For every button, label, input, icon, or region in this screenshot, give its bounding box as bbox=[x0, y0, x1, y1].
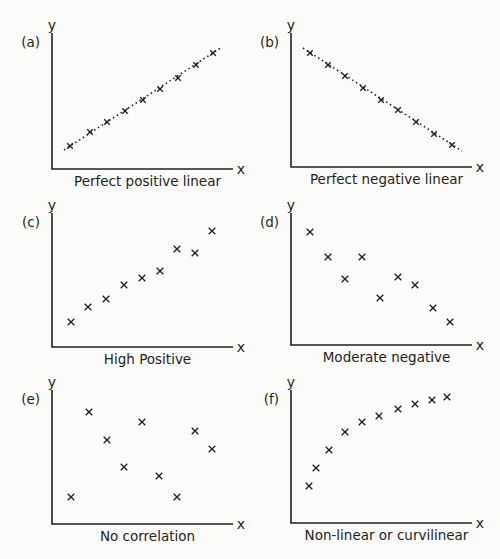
x-marker-icon bbox=[306, 483, 313, 490]
x-marker-icon bbox=[156, 473, 163, 480]
y-axis-label: y bbox=[48, 17, 56, 33]
panel-letter: (f) bbox=[264, 391, 279, 407]
panel-caption: Perfect positive linear bbox=[74, 173, 221, 189]
panel-letter: (b) bbox=[260, 34, 279, 50]
panel-caption: Moderate negative bbox=[323, 349, 451, 365]
x-axis-label: x bbox=[237, 161, 245, 177]
x-marker-icon bbox=[139, 419, 146, 426]
x-marker-icon bbox=[68, 319, 75, 326]
x-marker-icon bbox=[87, 129, 93, 135]
y-axis-label: y bbox=[287, 197, 295, 213]
x-marker-icon bbox=[174, 494, 181, 501]
x-marker-icon bbox=[342, 429, 349, 436]
x-marker-icon bbox=[342, 73, 348, 79]
panel-caption: No correlation bbox=[100, 528, 195, 544]
x-axis-label: x bbox=[476, 337, 484, 353]
x-marker-icon bbox=[85, 304, 92, 311]
x-marker-icon bbox=[121, 282, 128, 289]
x-marker-icon bbox=[209, 228, 216, 235]
x-marker-icon bbox=[377, 295, 384, 302]
x-marker-icon bbox=[103, 296, 110, 303]
x-marker-icon bbox=[444, 394, 451, 401]
x-marker-icon bbox=[359, 254, 366, 261]
x-marker-icon bbox=[325, 254, 332, 261]
x-marker-icon bbox=[157, 86, 163, 92]
x-marker-icon bbox=[104, 119, 110, 125]
scatter-plots-grid: yx(a)Perfect positive linearyx(b)Perfect… bbox=[0, 0, 500, 559]
x-marker-icon bbox=[360, 85, 366, 91]
x-marker-icon bbox=[326, 447, 333, 454]
panel-f-non-linear-or-curvilinear: yx(f)Non-linear or curvilinear bbox=[264, 374, 484, 543]
x-marker-icon bbox=[67, 143, 73, 149]
panel-b-perfect-negative-linear: yx(b)Perfect negative linear bbox=[260, 17, 484, 187]
x-marker-icon bbox=[413, 119, 419, 125]
x-marker-icon bbox=[121, 464, 128, 471]
panel-caption: Non-linear or curvilinear bbox=[305, 527, 469, 543]
x-marker-icon bbox=[447, 319, 454, 326]
panel-caption: High Positive bbox=[104, 351, 191, 367]
x-marker-icon bbox=[429, 397, 436, 404]
y-axis-label: y bbox=[48, 197, 56, 213]
x-marker-icon bbox=[412, 401, 419, 408]
x-marker-icon bbox=[122, 108, 128, 114]
x-marker-icon bbox=[359, 419, 366, 426]
x-marker-icon bbox=[342, 276, 349, 283]
y-axis-label: y bbox=[48, 374, 56, 390]
panel-a-perfect-positive-linear: yx(a)Perfect positive linear bbox=[21, 17, 245, 189]
x-marker-icon bbox=[449, 142, 455, 148]
x-marker-icon bbox=[313, 465, 320, 472]
x-marker-icon bbox=[104, 437, 111, 444]
panel-e-no-correlation: yx(e)No correlation bbox=[21, 374, 245, 544]
x-marker-icon bbox=[376, 413, 383, 420]
x-marker-icon bbox=[430, 305, 437, 312]
x-axis-label: x bbox=[476, 159, 484, 175]
panel-d-moderate-negative: yx(d)Moderate negative bbox=[260, 197, 484, 365]
x-axis-label: x bbox=[476, 515, 484, 531]
x-axis-label: x bbox=[237, 339, 245, 355]
panel-letter: (e) bbox=[21, 391, 40, 407]
correlation-figure: yx(a)Perfect positive linearyx(b)Perfect… bbox=[0, 0, 500, 559]
x-marker-icon bbox=[174, 246, 181, 253]
x-marker-icon bbox=[86, 409, 93, 416]
x-marker-icon bbox=[307, 229, 314, 236]
panel-c-high-positive: yx(c)High Positive bbox=[22, 197, 245, 367]
x-axis-label: x bbox=[237, 516, 245, 532]
panel-letter: (a) bbox=[21, 34, 40, 50]
axes bbox=[291, 213, 472, 345]
x-marker-icon bbox=[395, 107, 401, 113]
x-marker-icon bbox=[139, 275, 146, 282]
axes bbox=[52, 213, 233, 347]
panel-caption: Perfect negative linear bbox=[310, 171, 464, 187]
panel-letter: (d) bbox=[260, 214, 279, 230]
x-marker-icon bbox=[395, 406, 402, 413]
x-marker-icon bbox=[395, 274, 402, 281]
y-axis-label: y bbox=[287, 17, 295, 33]
x-marker-icon bbox=[412, 282, 419, 289]
x-marker-icon bbox=[209, 446, 216, 453]
x-marker-icon bbox=[68, 494, 75, 501]
x-marker-icon bbox=[192, 250, 199, 257]
axes bbox=[52, 390, 233, 524]
x-marker-icon bbox=[157, 268, 164, 275]
x-marker-icon bbox=[192, 428, 199, 435]
y-axis-label: y bbox=[287, 374, 295, 390]
panel-letter: (c) bbox=[22, 214, 40, 230]
x-marker-icon bbox=[210, 50, 216, 56]
axes bbox=[291, 390, 472, 523]
